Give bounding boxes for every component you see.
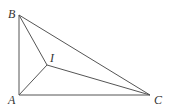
label-c: C [154,93,163,107]
label-b: B [8,7,16,21]
segment-ci [47,65,150,95]
geometry-diagram: B A C I [0,0,172,111]
segment-ai [19,65,47,95]
segment-bi [19,15,47,65]
label-i: I [49,51,55,65]
segment-bc [19,15,150,95]
triangle-figure: B A C I [0,0,172,111]
label-a: A [7,93,16,107]
